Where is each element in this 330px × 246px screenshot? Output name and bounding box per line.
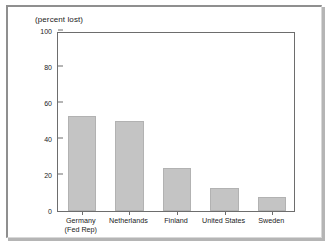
y-axis-tick-label: 80 (44, 64, 58, 71)
bar-slot (153, 33, 201, 211)
y-axis-tick-label: 60 (44, 100, 58, 107)
bar[interactable] (163, 168, 192, 211)
y-axis-tick-label: 20 (44, 172, 58, 179)
x-axis-category-label-line1: Germany (66, 216, 96, 225)
x-axis-category-label: Sweden (247, 216, 295, 225)
x-axis-category-label: Finland (152, 216, 200, 225)
y-axis-tick-label: 100 (40, 28, 58, 35)
x-axis-category-label: United States (200, 216, 248, 225)
x-axis-tick-mark (225, 211, 226, 215)
bar-chart: (percent lost) 020406080100 Germany(Fed … (0, 0, 330, 246)
x-axis-category-label-line1: United States (202, 216, 245, 225)
bar-slot (248, 33, 296, 211)
bar[interactable] (115, 121, 144, 211)
bar[interactable] (68, 116, 97, 211)
x-axis-tick-mark (177, 211, 178, 215)
x-axis-category-label: Netherlands (105, 216, 153, 225)
x-axis-tick-mark (129, 211, 130, 215)
bar-slot (58, 33, 106, 211)
x-axis-category-label-line1: Finland (164, 216, 188, 225)
y-axis-tick-label: 40 (44, 136, 58, 143)
x-axis-category-label-line1: Sweden (258, 216, 284, 225)
bar-slot (201, 33, 249, 211)
bar-slot (106, 33, 154, 211)
plot-area: 020406080100 (57, 32, 295, 212)
y-axis-tick-mark (58, 30, 63, 31)
bar[interactable] (210, 188, 239, 211)
x-axis-category-label: Germany(Fed Rep) (57, 216, 105, 234)
x-axis-tick-mark (82, 211, 83, 215)
chart-title: (percent lost) (35, 15, 83, 24)
x-axis-tick-mark (272, 211, 273, 215)
bar[interactable] (258, 197, 287, 211)
x-axis-category-label-line2: (Fed Rep) (57, 225, 105, 234)
bar-series (58, 33, 294, 211)
y-axis-tick-label: 0 (48, 208, 58, 215)
x-axis-category-label-line1: Netherlands (109, 216, 148, 225)
x-axis-labels: Germany(Fed Rep)NetherlandsFinlandUnited… (57, 216, 295, 242)
